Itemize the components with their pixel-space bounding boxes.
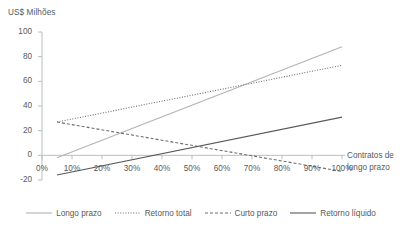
chart-legend: Longo prazoRetorno totalCurto prazoRetor… [0, 205, 402, 221]
series-line-1 [57, 47, 342, 158]
series-line-2 [57, 65, 342, 122]
x-tick-label: 90% [299, 164, 325, 173]
legend-label: Retorno total [145, 209, 192, 218]
x-tick-label: 100% [329, 164, 355, 173]
y-tick-label: 40 [8, 101, 32, 110]
y-tick-label: 0 [8, 150, 32, 159]
legend-label: Curto prazo [235, 209, 278, 218]
legend-label: Retorno líquido [320, 209, 376, 218]
legend-item[interactable]: Longo prazo [26, 209, 102, 218]
legend-swatch-solid [290, 209, 316, 217]
x-tick-label: 10% [59, 164, 85, 173]
x-tick-label: 30% [119, 164, 145, 173]
x-tick-label: 60% [209, 164, 235, 173]
x-tick-label: 50% [179, 164, 205, 173]
legend-swatch-dashed [205, 209, 231, 217]
legend-label: Longo prazo [56, 209, 102, 218]
x-tick-label: 40% [149, 164, 175, 173]
y-tick-label: -20 [8, 175, 32, 184]
x-tick-label: 80% [269, 164, 295, 173]
plot-area [0, 0, 402, 225]
y-tick-label: 60 [8, 76, 32, 85]
legend-swatch-solid [26, 209, 52, 217]
legend-swatch-dotted [115, 209, 141, 217]
y-tick-label: 80 [8, 52, 32, 61]
legend-item[interactable]: Curto prazo [205, 209, 278, 218]
x-tick-label: 20% [89, 164, 115, 173]
x-tick-label: 0% [29, 164, 55, 173]
legend-item[interactable]: Retorno total [115, 209, 192, 218]
line-chart: US$ Milhões Contratos de longo prazo 100… [0, 0, 402, 225]
x-tick-label: 70% [239, 164, 265, 173]
y-tick-label: 20 [8, 126, 32, 135]
legend-item[interactable]: Retorno líquido [290, 209, 376, 218]
y-tick-label: 100 [8, 27, 32, 36]
